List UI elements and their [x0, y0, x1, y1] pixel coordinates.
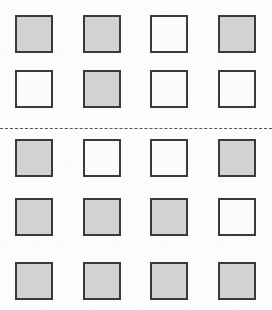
grid-square-r3-c3 — [218, 198, 256, 236]
grid-square-r2-c3 — [218, 139, 256, 177]
square-grid-figure — [0, 0, 272, 310]
grid-square-r1-c2 — [150, 70, 188, 108]
grid-square-r0-c1 — [83, 15, 121, 53]
grid-square-r3-c0 — [15, 198, 53, 236]
grid-square-r1-c1 — [83, 70, 121, 108]
grid-square-r4-c3 — [218, 262, 256, 300]
grid-square-r4-c1 — [83, 262, 121, 300]
grid-square-r3-c2 — [150, 198, 188, 236]
grid-square-r3-c1 — [83, 198, 121, 236]
grid-square-r1-c3 — [218, 70, 256, 108]
grid-square-r0-c2 — [150, 15, 188, 53]
grid-square-r2-c2 — [150, 139, 188, 177]
grid-square-r4-c2 — [150, 262, 188, 300]
grid-square-r0-c0 — [15, 15, 53, 53]
grid-square-r2-c0 — [15, 139, 53, 177]
grid-square-r1-c0 — [15, 70, 53, 108]
dashed-divider — [0, 128, 272, 129]
grid-square-r0-c3 — [218, 15, 256, 53]
grid-square-r4-c0 — [15, 262, 53, 300]
grid-square-r2-c1 — [83, 139, 121, 177]
